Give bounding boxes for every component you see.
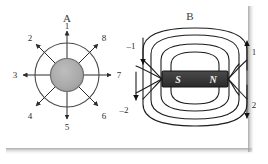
ray-label-8: 8	[102, 33, 107, 43]
ray-label-2: 2	[28, 33, 33, 43]
flux-label-left-top: –1	[126, 41, 136, 51]
flux-label-right-top: 1	[252, 47, 257, 57]
card-shadow-right	[248, 6, 255, 152]
ray-label-6: 6	[102, 111, 107, 121]
gray-sphere-source-icon	[51, 59, 84, 92]
ray-label-3: 3	[13, 70, 18, 80]
figure-container: A 1 2 3 4 5 6 7 8	[0, 0, 268, 164]
card-shadow-bottom	[6, 148, 252, 155]
flux-label-right-bottom: 2	[252, 100, 257, 110]
ray-label-5: 5	[65, 122, 70, 132]
flux-label-left-bottom: –2	[119, 105, 129, 115]
ray-label-7: 7	[117, 70, 122, 80]
magnet-north-pole-label: N	[208, 74, 217, 85]
magnet-south-pole-label: S	[175, 74, 181, 85]
physics-figure-svg: A 1 2 3 4 5 6 7 8	[0, 0, 268, 164]
ray-label-4: 4	[28, 111, 33, 121]
panel-b-title: B	[186, 10, 193, 22]
bar-magnet	[162, 71, 228, 87]
ray-label-1: 1	[65, 21, 70, 31]
